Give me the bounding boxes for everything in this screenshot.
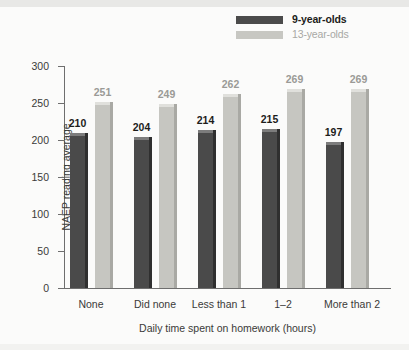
bar-side <box>341 142 344 288</box>
bar-less-than-1-13-year-olds[interactable]: 262 <box>223 94 238 288</box>
bar-face <box>95 105 110 288</box>
y-tick-50: 50 <box>58 251 64 252</box>
chart-page: 9-year-olds 13-year-olds NAEP reading av… <box>0 0 409 350</box>
y-tick-250: 250 <box>58 103 64 104</box>
bar-value-1-2-13-year-olds: 269 <box>286 73 304 85</box>
bar-did-none-9-year-olds[interactable]: 204 <box>134 137 149 288</box>
y-tick-label-200: 200 <box>31 134 49 146</box>
bar-value-less-than-1-13-year-olds: 262 <box>222 78 240 90</box>
bar-side <box>213 130 216 288</box>
x-tick-label-1-2: 1–2 <box>274 298 292 310</box>
y-tick-0: 0 <box>58 288 64 289</box>
bar-side <box>174 104 177 288</box>
y-tick-150: 150 <box>58 177 64 178</box>
y-tick-label-50: 50 <box>37 245 49 257</box>
y-tick-100: 100 <box>58 214 64 215</box>
y-tick-label-100: 100 <box>31 208 49 220</box>
bar-value-did-none-13-year-olds: 249 <box>158 88 176 100</box>
y-tick-label-300: 300 <box>31 60 49 72</box>
x-axis-title: Daily time spent on homework (hours) <box>64 322 391 334</box>
bar-value-none-13-year-olds: 251 <box>94 86 112 98</box>
bar-side <box>110 102 113 288</box>
bar-side <box>85 133 88 288</box>
bar-face <box>287 92 302 288</box>
bar-value-none-9-year-olds: 210 <box>69 117 87 129</box>
bar-value-1-2-9-year-olds: 215 <box>261 113 279 125</box>
x-tick-label-did-none: Did none <box>134 298 176 310</box>
bar-more-than-2-13-year-olds[interactable]: 269 <box>351 89 366 288</box>
legend-item-9-year-olds: 9-year-olds <box>236 12 349 27</box>
legend-label-13-year-olds: 13-year-olds <box>292 29 349 40</box>
bar-more-than-2-9-year-olds[interactable]: 197 <box>326 142 341 288</box>
plot-area: NAEP reading average 300 250 200 150 100… <box>64 66 391 288</box>
bar-1-2-9-year-olds[interactable]: 215 <box>262 129 277 288</box>
bar-face <box>159 107 174 288</box>
y-tick-label-0: 0 <box>43 282 49 294</box>
bar-face <box>262 132 277 288</box>
bar-face <box>70 136 85 288</box>
legend-swatch-9-year-olds <box>236 16 283 24</box>
bar-face <box>326 145 341 288</box>
x-tick-label-more-than-2: More than 2 <box>324 298 380 310</box>
bottom-edge-band <box>0 344 409 350</box>
bar-side <box>238 94 241 288</box>
bar-value-less-than-1-9-year-olds: 214 <box>197 114 215 126</box>
bar-did-none-13-year-olds[interactable]: 249 <box>159 104 174 288</box>
chart-legend: 9-year-olds 13-year-olds <box>236 12 349 42</box>
legend-swatch-13-year-olds <box>236 31 283 39</box>
bar-side <box>302 89 305 288</box>
y-tick-200: 200 <box>58 140 64 141</box>
bar-face <box>351 92 366 288</box>
bar-none-9-year-olds[interactable]: 210 <box>70 133 85 288</box>
bar-face <box>134 140 149 288</box>
bar-face <box>198 133 213 288</box>
bar-value-did-none-9-year-olds: 204 <box>133 121 151 133</box>
x-axis-line <box>64 288 391 289</box>
bar-face <box>223 97 238 288</box>
x-tick-label-none: None <box>78 298 103 310</box>
bar-1-2-13-year-olds[interactable]: 269 <box>287 89 302 288</box>
bar-value-more-than-2-13-year-olds: 269 <box>350 73 368 85</box>
y-tick-label-150: 150 <box>31 171 49 183</box>
y-tick-300: 300 <box>58 66 64 67</box>
bar-side <box>149 137 152 288</box>
bar-value-more-than-2-9-year-olds: 197 <box>325 126 343 138</box>
legend-item-13-year-olds: 13-year-olds <box>236 27 349 42</box>
bar-side <box>366 89 369 288</box>
top-edge-band <box>0 0 409 7</box>
legend-label-9-year-olds: 9-year-olds <box>292 14 346 25</box>
bar-none-13-year-olds[interactable]: 251 <box>95 102 110 288</box>
bar-side <box>277 129 280 288</box>
x-tick-label-less-than-1: Less than 1 <box>192 298 246 310</box>
bar-less-than-1-9-year-olds[interactable]: 214 <box>198 130 213 288</box>
y-tick-label-250: 250 <box>31 97 49 109</box>
